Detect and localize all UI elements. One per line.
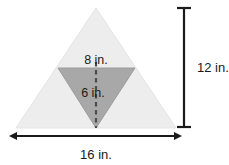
geometry-figure: 8 in. 6 in. 12 in. 16 in. xyxy=(0,0,229,165)
label-inner-height: 6 in. xyxy=(81,86,105,100)
geometry-figure-canvas: 8 in. 6 in. 12 in. 16 in. xyxy=(0,0,229,165)
vertical-dimension-line xyxy=(177,7,191,128)
label-outer-base: 16 in. xyxy=(80,147,112,162)
label-inner-base: 8 in. xyxy=(84,53,108,67)
label-outer-height: 12 in. xyxy=(197,60,229,75)
